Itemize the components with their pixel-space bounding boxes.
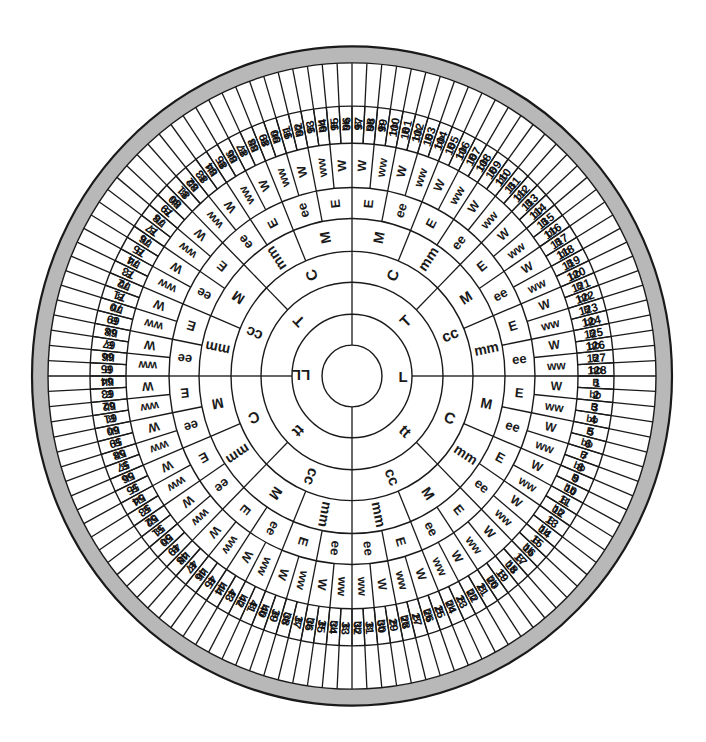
ring-E-label: ee bbox=[294, 201, 312, 220]
ring-E-label: E bbox=[264, 216, 281, 231]
ring-M-label: M bbox=[370, 230, 388, 245]
ring-T-label: tt bbox=[289, 421, 308, 440]
ring-M-label: mm bbox=[451, 441, 480, 469]
ring-W-label: W bbox=[448, 548, 466, 566]
ring-W-label: ww bbox=[203, 208, 227, 233]
segment-divider-line bbox=[127, 353, 170, 357]
ring-E-label: E bbox=[514, 385, 524, 401]
segment-divider-line bbox=[411, 522, 422, 551]
segment-divider-line bbox=[316, 191, 322, 221]
ring-W-label: ww bbox=[504, 239, 528, 263]
segment-divider-line bbox=[211, 424, 241, 437]
ring-W-label: W bbox=[480, 523, 498, 542]
ring-W-label: W bbox=[355, 159, 369, 172]
ring-W-label: W bbox=[335, 159, 349, 172]
ring-W-label: W bbox=[179, 492, 197, 511]
ring-W-label: W bbox=[141, 379, 153, 394]
segment-divider-line bbox=[502, 407, 531, 413]
segment-divider-line bbox=[438, 265, 461, 288]
segment-divider-line bbox=[370, 144, 374, 188]
ring-W-label: W bbox=[537, 296, 553, 313]
ring-M-label: mm bbox=[315, 500, 335, 528]
ring-M-label: M bbox=[266, 484, 286, 503]
ring-E-label: E bbox=[474, 257, 490, 275]
ring-M-label: M bbox=[457, 288, 475, 308]
segment-divider-line bbox=[416, 288, 437, 310]
ring-L-label: LL bbox=[292, 367, 310, 384]
ring-E-label: ee bbox=[182, 417, 200, 436]
segment-divider-line bbox=[464, 316, 494, 329]
wheel-svg: LLLttttTTCccccCccCCccMmmMmmmmMmmMmmMmmMM… bbox=[0, 0, 706, 742]
segment-divider-line bbox=[211, 316, 241, 329]
wheel-root: LLLttttTTCccccCccCCccMmmMmmmmMmmMmmMmmMM… bbox=[32, 46, 672, 705]
ring-W-label: ww bbox=[539, 315, 562, 334]
segment-divider-line bbox=[127, 394, 170, 398]
ring-W-label: W bbox=[191, 225, 209, 244]
ring-E-label: ee bbox=[421, 518, 441, 538]
segment-divider-line bbox=[316, 531, 322, 561]
segment-divider-line bbox=[244, 464, 267, 487]
ring-T-label: tt bbox=[396, 421, 415, 440]
segment-divider-line bbox=[244, 265, 267, 288]
ring-E-label: E bbox=[361, 198, 377, 209]
segment-divider-line bbox=[411, 202, 422, 231]
ring-W-label: W bbox=[431, 177, 449, 194]
segment-divider-line bbox=[330, 564, 334, 608]
ring-E-label: ee bbox=[504, 417, 522, 436]
ring-W-label: ww bbox=[477, 208, 501, 233]
ring-W-label: ww bbox=[543, 398, 565, 415]
ring-W-label: W bbox=[205, 523, 223, 542]
ring-E-label: ee bbox=[511, 351, 527, 368]
ring-W-label: W bbox=[151, 296, 167, 313]
ring-W-label: ww bbox=[446, 183, 468, 208]
ring-C-label: cc bbox=[382, 466, 404, 489]
segment-divider-line bbox=[266, 442, 287, 464]
ring-W-label: ww bbox=[142, 315, 165, 334]
ring-L-label: L bbox=[398, 367, 407, 384]
ring-W-label: ww bbox=[462, 532, 485, 557]
ring-E-label: ee bbox=[263, 518, 283, 538]
ring-W-label: ww bbox=[176, 239, 200, 263]
ring-M-label: mm bbox=[204, 338, 231, 359]
segment-divider-line bbox=[370, 564, 374, 608]
segment-number-label: 128 bbox=[587, 363, 607, 377]
segment-divider-line bbox=[493, 304, 521, 316]
ring-C-label: cc bbox=[300, 466, 322, 489]
ring-E-label: ee bbox=[490, 284, 510, 304]
ring-E-label: ee bbox=[212, 475, 233, 496]
ring-E-label: E bbox=[450, 501, 467, 518]
ring-W-label: ww bbox=[392, 568, 410, 592]
ring-W-label: W bbox=[548, 337, 562, 353]
ring-E-label: ee bbox=[360, 540, 376, 556]
segment-divider-line bbox=[266, 288, 287, 310]
ring-E-label: E bbox=[185, 317, 198, 334]
ring-E-label: ee bbox=[448, 232, 469, 253]
ring-E-label: E bbox=[506, 317, 519, 334]
ring-boundary-circle bbox=[322, 345, 382, 407]
ring-E-label: E bbox=[328, 198, 344, 209]
ring-W-label: ww bbox=[374, 157, 391, 180]
ring-W-label: ww bbox=[236, 183, 258, 208]
ring-E-label: E bbox=[392, 535, 409, 548]
segment-divider-line bbox=[183, 436, 211, 448]
ring-W-label: W bbox=[168, 258, 185, 276]
ring-C-label: C bbox=[442, 408, 458, 428]
ring-W-label: W bbox=[146, 419, 161, 436]
ring-wheel-diagram: LLLttttTTCccccCccCCccMmmMmmmmMmmMmmMmmMM… bbox=[0, 0, 706, 742]
ring-W-label: W bbox=[238, 548, 256, 566]
ring-W-label: W bbox=[159, 457, 176, 475]
ring-M-label: mm bbox=[369, 500, 389, 528]
ring-E-label: E bbox=[180, 385, 190, 401]
ring-W-label: ww bbox=[491, 505, 515, 529]
ring-E-label: E bbox=[237, 501, 254, 518]
segment-divider-line bbox=[293, 230, 305, 260]
ring-W-label: W bbox=[221, 197, 239, 215]
ring-E-label: ee bbox=[177, 351, 193, 368]
ring-W-label: W bbox=[529, 457, 546, 475]
ring-W-label: W bbox=[550, 379, 562, 394]
ring-M-label: M bbox=[479, 394, 494, 412]
ring-W-label: W bbox=[508, 492, 526, 511]
ring-M-label: M bbox=[316, 230, 334, 245]
ring-W-label: W bbox=[519, 258, 536, 276]
ring-W-label: ww bbox=[515, 473, 539, 496]
